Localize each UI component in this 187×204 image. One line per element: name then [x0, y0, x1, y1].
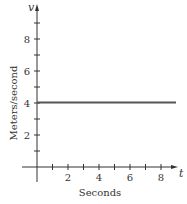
x-axis-title: Seconds [79, 187, 121, 198]
x-tick-label-2: 2 [65, 172, 71, 183]
velocity-chart: 2 4 6 8 2 4 6 8 v t Seconds Meters/secon… [0, 0, 187, 204]
x-tick-label-8: 8 [158, 172, 164, 183]
y-axis-title: Meters/second [8, 65, 19, 140]
x-tick-label-4: 4 [96, 172, 102, 183]
x-tick-label-6: 6 [127, 172, 133, 183]
y-axis-variable: v [28, 1, 35, 14]
x-axis-arrow-icon [171, 165, 178, 169]
x-axis-variable: t [179, 167, 184, 180]
y-axis-arrow-icon [35, 4, 39, 11]
y-tick-label-6: 6 [24, 66, 30, 77]
y-tick-label-2: 2 [24, 130, 30, 141]
y-tick-label-4: 4 [24, 98, 30, 109]
y-tick-label-8: 8 [24, 34, 30, 45]
